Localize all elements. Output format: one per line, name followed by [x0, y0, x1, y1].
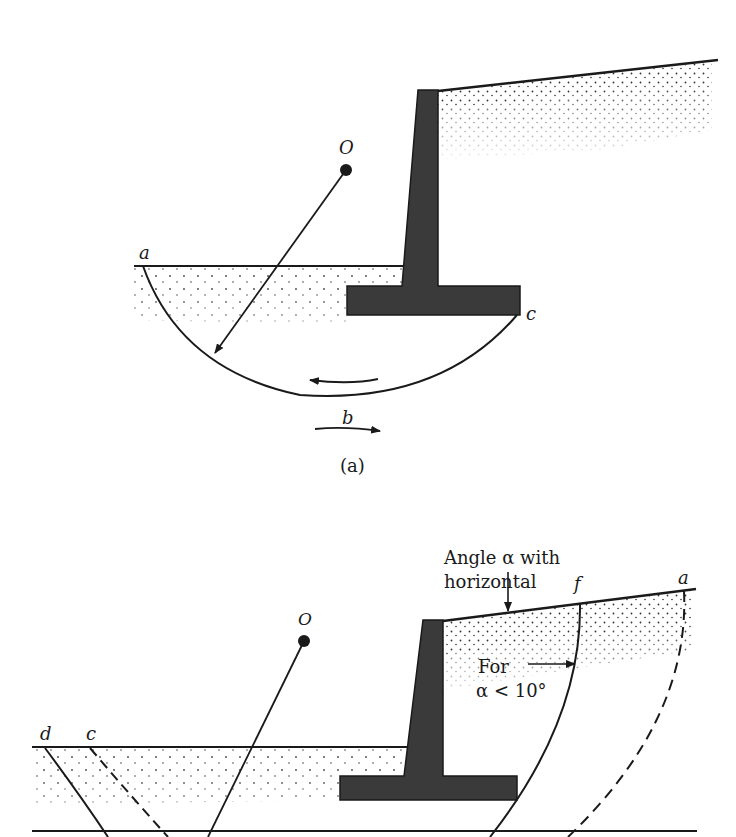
label-a-a: a [139, 242, 150, 263]
label-c-a: c [526, 303, 536, 324]
retaining-wall-stability-diagram: O a b c (a) [0, 0, 736, 837]
alpha-condition-label-line2: α < 10° [476, 680, 547, 701]
label-c-b: c [86, 723, 96, 744]
label-b-a: b [342, 407, 354, 428]
label-o-b: O [298, 609, 312, 629]
label-o-a: O [339, 137, 354, 158]
slope-angle-label-line2: horizontal [444, 571, 537, 592]
slope-angle-label-line1: Angle α with [443, 547, 561, 568]
label-d-b: d [40, 723, 52, 744]
backfill-soil-a [438, 62, 712, 165]
caption-a: (a) [340, 455, 365, 476]
figure-b: Angle α with horizontal For α < 10° O d … [32, 547, 697, 837]
alpha-condition-label-line1: For [478, 656, 509, 677]
label-a-b: a [678, 567, 689, 588]
rotation-arrow-icon [310, 379, 378, 382]
label-f-b: f [572, 573, 584, 594]
figure-a: O a b c (a) [134, 60, 718, 476]
resistance-arrow-icon [315, 428, 380, 431]
